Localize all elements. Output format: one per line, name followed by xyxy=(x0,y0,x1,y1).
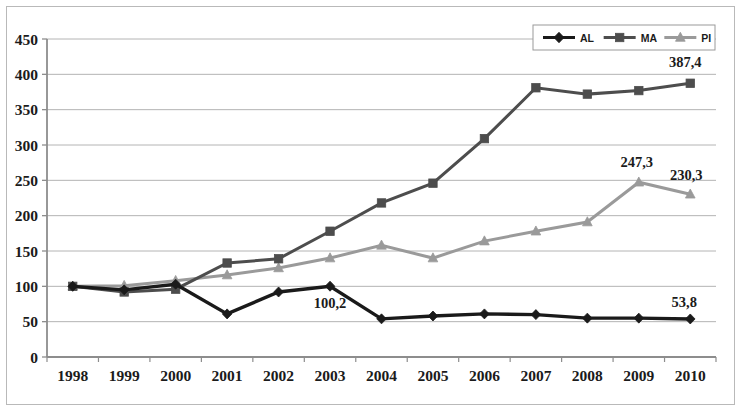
datapoint-ma-2003 xyxy=(326,227,334,235)
x-tick-label-1998: 1998 xyxy=(57,367,88,384)
data-label-ma-2010: 387,4 xyxy=(669,54,702,70)
x-tick-label-2002: 2002 xyxy=(263,367,294,384)
x-tick-label-2009: 2009 xyxy=(623,367,654,384)
series-pi xyxy=(68,177,695,290)
y-tick-label-200: 200 xyxy=(15,207,39,224)
y-axis: 050100150200250300350400450 xyxy=(15,31,47,366)
x-tick-label-2007: 2007 xyxy=(520,367,551,384)
series-ma xyxy=(69,79,695,296)
chart-legend: ALMAPI xyxy=(533,25,715,50)
datapoint-ma-2004 xyxy=(377,199,385,207)
datapoint-ma-2002 xyxy=(274,255,282,263)
x-tick-label-2008: 2008 xyxy=(572,367,603,384)
y-tick-label-450: 450 xyxy=(15,31,39,48)
y-tick-label-100: 100 xyxy=(15,278,39,295)
x-tick-label-2004: 2004 xyxy=(366,367,397,384)
y-tick-label-0: 0 xyxy=(30,349,38,366)
datapoint-ma-2008 xyxy=(583,90,591,98)
legend-marker-square-icon xyxy=(615,33,623,41)
datapoint-al-2010 xyxy=(685,314,695,324)
datapoint-al-2006 xyxy=(480,309,490,319)
x-tick-label-1999: 1999 xyxy=(109,367,140,384)
x-tick-label-2006: 2006 xyxy=(469,367,500,384)
data-label-pi-2010: 230,3 xyxy=(670,167,703,183)
legend-label-ma: MA xyxy=(641,32,658,44)
legend-label-pi: PI xyxy=(701,32,711,44)
datapoint-al-2002 xyxy=(274,287,284,297)
datapoint-ma-2009 xyxy=(635,86,643,94)
y-tick-label-250: 250 xyxy=(15,172,39,189)
data-label-pi-2009: 247,3 xyxy=(620,154,653,170)
y-tick-label-50: 50 xyxy=(23,313,39,330)
x-tick-label-2003: 2003 xyxy=(315,367,346,384)
data-label-al-2010: 53,8 xyxy=(672,294,697,310)
x-axis: 1998199920002001200220032004200520062007… xyxy=(47,357,716,384)
datapoint-ma-2005 xyxy=(429,179,437,187)
series-plot-area xyxy=(68,79,695,324)
data-label-al-2003: 100,2 xyxy=(314,295,347,311)
line-chart: 050100150200250300350400450 199819992000… xyxy=(0,0,741,411)
datapoint-ma-2007 xyxy=(532,84,540,92)
chart-figure: 050100150200250300350400450 199819992000… xyxy=(0,0,741,411)
datapoint-al-2005 xyxy=(428,311,438,321)
datapoint-al-2007 xyxy=(531,310,541,320)
y-tick-label-400: 400 xyxy=(15,66,39,83)
datapoint-ma-2010 xyxy=(686,79,694,87)
x-tick-label-2005: 2005 xyxy=(417,367,448,384)
x-tick-label-2001: 2001 xyxy=(212,367,243,384)
x-tick-label-2010: 2010 xyxy=(675,367,706,384)
datapoint-ma-2006 xyxy=(480,134,488,142)
y-tick-label-350: 350 xyxy=(15,101,39,118)
y-tick-label-300: 300 xyxy=(15,137,39,154)
series-line-ma xyxy=(73,83,691,292)
gridlines xyxy=(47,39,716,357)
datapoint-ma-2001 xyxy=(223,259,231,267)
datapoint-pi-2004 xyxy=(377,240,387,249)
series-line-pi xyxy=(73,182,691,286)
legend-label-al: AL xyxy=(580,32,595,44)
x-tick-label-2000: 2000 xyxy=(160,367,191,384)
y-tick-label-150: 150 xyxy=(15,243,39,260)
